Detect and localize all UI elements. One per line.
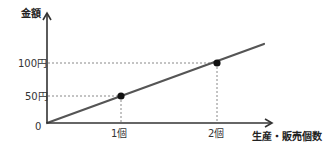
chart-svg: 金額 100円 50円 0 1個 2個 生産・販売個数	[0, 0, 331, 149]
x-axis-label: 生産・販売個数	[252, 130, 323, 142]
x-tick-1: 1個	[111, 127, 127, 139]
axes	[43, 13, 272, 127]
data-point-1	[117, 92, 124, 99]
data-line	[47, 44, 264, 123]
y-axis-label: 金額	[20, 7, 41, 19]
origin-label: 0	[35, 121, 41, 132]
x-tick-2: 2個	[208, 127, 224, 139]
y-tick-100: 100円	[18, 58, 47, 69]
y-tick-50: 50円	[25, 91, 48, 102]
data-point-2	[213, 59, 220, 66]
